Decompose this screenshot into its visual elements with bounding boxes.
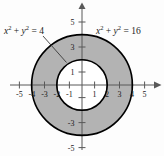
x-tick-label: 2	[105, 90, 109, 99]
x-tick-label: 1	[93, 90, 97, 99]
y-tick-label: 3	[71, 43, 75, 52]
x-tick-label: -2	[54, 90, 61, 99]
coordinate-plane: -5 -4 -3 -2 -1 1 2 3 4 5 5 3 1 -3 -5	[0, 0, 164, 156]
outer-eq-plus: +	[103, 26, 113, 36]
x-axis-arrow-icon	[154, 82, 162, 89]
x-tick-label: -5	[16, 90, 23, 99]
y-tick-label: 1	[71, 68, 75, 77]
x-tick-label: -4	[29, 90, 36, 99]
x-tick-label: 3	[118, 90, 122, 99]
x-tick-label: -1	[66, 90, 73, 99]
annulus-figure: -5 -4 -3 -2 -1 1 2 3 4 5 5 3 1 -3 -5 x2 …	[0, 0, 164, 156]
outer-circle-equation-label: x2 + y2 = 16	[96, 26, 141, 36]
y-axis-arrow-icon	[79, 3, 86, 10]
y-tick-label: -5	[68, 144, 75, 153]
inner-eq-plus: +	[11, 26, 21, 36]
x-tick-label: 5	[143, 90, 147, 99]
y-tick-label: -3	[68, 119, 75, 128]
inner-eq-rhs: 4	[39, 26, 44, 36]
outer-eq-rhs: 16	[131, 26, 141, 36]
y-tick-label: 5	[71, 18, 75, 27]
outer-eq-equals: =	[121, 26, 131, 36]
x-tick-label: -3	[41, 90, 48, 99]
inner-eq-equals: =	[29, 26, 39, 36]
x-tick-label: 4	[130, 90, 134, 99]
inner-circle-equation-label: x2 + y2 = 4	[4, 26, 44, 36]
